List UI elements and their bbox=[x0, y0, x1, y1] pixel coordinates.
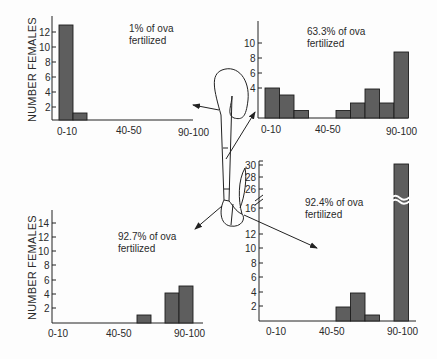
svg-text:30: 30 bbox=[245, 160, 257, 171]
svg-text:fertilized: fertilized bbox=[307, 38, 344, 49]
svg-text:8: 8 bbox=[44, 260, 50, 271]
svg-text:90-100: 90-100 bbox=[174, 328, 206, 339]
svg-text:0-10: 0-10 bbox=[48, 328, 68, 339]
svg-text:fertilized: fertilized bbox=[129, 35, 166, 46]
arrow-to-bottom-left bbox=[195, 206, 222, 229]
bar-0-10 bbox=[59, 25, 73, 120]
annotation: 92.7% of ova bbox=[118, 231, 177, 242]
svg-text:2: 2 bbox=[44, 303, 50, 314]
svg-text:40-50: 40-50 bbox=[315, 124, 341, 135]
svg-text:4: 4 bbox=[44, 289, 50, 300]
axes bbox=[259, 161, 416, 321]
svg-text:fertilized: fertilized bbox=[118, 243, 155, 254]
histogram-top-left: NUMBER FEMALES 12 10 8 6 4 2 0-10 40-50 … bbox=[26, 16, 210, 138]
svg-text:6: 6 bbox=[45, 72, 51, 83]
svg-text:0-10: 0-10 bbox=[57, 126, 77, 137]
svg-text:90-100: 90-100 bbox=[178, 127, 210, 138]
svg-text:40-50: 40-50 bbox=[106, 328, 132, 339]
svg-text:10: 10 bbox=[39, 42, 51, 53]
histogram-bottom-right: 30 28 26 16 12 10 8 6 4 2 0-10 40-50 90-… bbox=[245, 160, 419, 337]
annotation: 1% of ova bbox=[129, 23, 174, 34]
svg-text:40-50: 40-50 bbox=[319, 326, 345, 337]
svg-text:4: 4 bbox=[45, 87, 51, 98]
svg-text:10: 10 bbox=[38, 246, 50, 257]
svg-text:12: 12 bbox=[245, 229, 257, 240]
svg-text:6: 6 bbox=[44, 275, 50, 286]
histogram-top-right: 10 8 6 4 0-10 40-50 90-100 63.3% of ova … bbox=[244, 21, 418, 137]
svg-text:4: 4 bbox=[251, 287, 257, 298]
svg-text:14: 14 bbox=[38, 218, 50, 229]
y-ticks: 14 12 10 8 6 4 2 bbox=[38, 218, 56, 314]
reproductive-tract-drawing bbox=[214, 69, 248, 227]
svg-text:40-50: 40-50 bbox=[116, 125, 142, 136]
svg-text:4: 4 bbox=[250, 83, 256, 94]
annotation: 63.3% of ova bbox=[307, 26, 366, 37]
svg-text:90-100: 90-100 bbox=[387, 326, 419, 337]
svg-text:2: 2 bbox=[251, 301, 257, 312]
svg-text:fertilized: fertilized bbox=[305, 209, 342, 220]
svg-text:10: 10 bbox=[245, 243, 257, 254]
annotation: 92.4% of ova bbox=[305, 197, 364, 208]
svg-text:6: 6 bbox=[251, 272, 257, 283]
svg-text:2: 2 bbox=[45, 102, 51, 113]
y-ticks-upper: 30 28 26 bbox=[245, 160, 263, 195]
svg-text:0-10: 0-10 bbox=[266, 326, 286, 337]
histogram-bottom-left: NUMBER FEMALES 14 12 10 8 6 4 2 0-10 40-… bbox=[26, 210, 206, 339]
svg-text:8: 8 bbox=[251, 258, 257, 269]
svg-text:8: 8 bbox=[45, 57, 51, 68]
bar-10-20 bbox=[73, 113, 87, 120]
svg-text:16: 16 bbox=[245, 203, 257, 214]
svg-text:28: 28 bbox=[245, 172, 257, 183]
y-axis-label: NUMBER FEMALES bbox=[26, 17, 38, 122]
svg-text:12: 12 bbox=[39, 27, 51, 38]
svg-text:12: 12 bbox=[38, 232, 50, 243]
y-ticks: 12 10 8 6 4 2 bbox=[39, 27, 56, 113]
svg-text:0-10: 0-10 bbox=[261, 124, 281, 135]
svg-text:90-100: 90-100 bbox=[386, 126, 418, 137]
svg-text:8: 8 bbox=[250, 53, 256, 64]
arrow-to-top-left bbox=[193, 105, 219, 110]
svg-text:26: 26 bbox=[245, 184, 257, 195]
arrow-to-top-right bbox=[226, 112, 255, 159]
bar-90-100-broken bbox=[394, 164, 409, 321]
figure-canvas: NUMBER FEMALES 12 10 8 6 4 2 0-10 40-50 … bbox=[0, 0, 437, 359]
svg-text:10: 10 bbox=[244, 38, 256, 49]
svg-text:6: 6 bbox=[250, 68, 256, 79]
y-axis-label: NUMBER FEMALES bbox=[26, 215, 38, 320]
